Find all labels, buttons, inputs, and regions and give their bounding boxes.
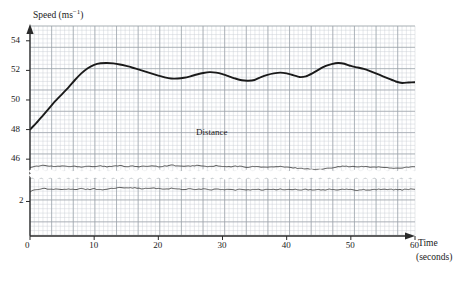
y-tick-label-52: 52 [11,64,20,74]
x-tick-label-40: 40 [282,240,291,250]
y-tick-label-54: 54 [11,35,20,45]
axis-break-mask-1 [30,171,417,173]
y-axis-title-base: Speed (ms [33,10,73,20]
y-tick-label-48: 48 [11,124,20,134]
x-tick-label-20: 20 [153,240,162,250]
axis-break-mask-2 [30,175,417,177]
x-tick-label-10: 10 [89,240,98,250]
x-tick-label-50: 50 [346,240,355,250]
y-axis-title: Speed (ms−1) [33,8,83,20]
y-axis-arrow [26,24,33,34]
y-tick-label-46: 46 [11,153,20,163]
x-tick-label-60: 60 [410,240,419,250]
x-axis-title: Time [418,238,438,248]
series-line-2 [30,165,415,170]
chart-canvas [0,0,465,281]
x-axis-arrow [405,232,415,239]
y-tick-label-lower-2: 2 [19,195,24,205]
speed-time-chart: Speed (ms−1) Time (seconds) Distance 010… [0,0,465,281]
series-line-3 [30,187,415,192]
axis-break-marks [30,171,417,177]
x-tick-label-30: 30 [218,240,227,250]
y-tick-label-50: 50 [11,94,20,104]
distance-annotation-label: Distance [196,127,228,137]
x-axis-units: (seconds) [416,252,452,262]
y-axis-title-close: ) [80,10,83,20]
x-tick-label-0: 0 [25,240,30,250]
